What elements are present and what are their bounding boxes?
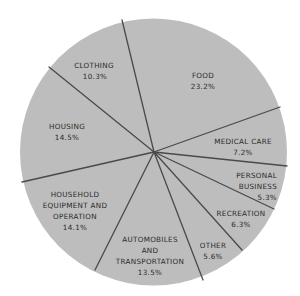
slice-label-housing: HOUSING (49, 122, 85, 131)
slice-label-personal-1: PERSONAL (236, 171, 277, 180)
slice-label-recreation: RECREATION (217, 209, 266, 218)
slice-label-auto-3: TRANSPORTATION (115, 257, 184, 266)
slice-label-household-3: OPERATION (53, 212, 97, 221)
slice-pct-recreation: 6.3% (231, 220, 250, 229)
slice-pct-housing: 14.5% (55, 133, 79, 142)
slice-pct-food: 23.2% (191, 82, 215, 91)
slice-label-auto-2: AND (142, 246, 159, 255)
slice-label-auto-1: AUTOMOBILES (122, 235, 178, 244)
slice-pct-household: 14.1% (63, 223, 87, 232)
slice-pct-other: 5.6% (203, 252, 222, 261)
pie-chart: FOOD 23.2% CLOTHING 10.3% HOUSING 14.5% … (0, 0, 300, 296)
slice-pct-clothing: 10.3% (83, 72, 107, 81)
slice-label-food: FOOD (192, 71, 214, 80)
slice-label-household-1: HOUSEHOLD (51, 190, 100, 199)
slice-label-medical: MEDICAL CARE (214, 137, 272, 146)
slice-pct-auto: 13.5% (138, 268, 162, 277)
slice-label-clothing: CLOTHING (74, 61, 114, 70)
slice-pct-medical: 7.2% (233, 148, 252, 157)
slice-pct-personal: 5.3% (258, 193, 277, 202)
slice-label-other: OTHER (200, 241, 227, 250)
slice-label-household-2: EQUIPMENT AND (43, 201, 108, 210)
slice-label-personal-2: BUSINESS (239, 182, 277, 191)
